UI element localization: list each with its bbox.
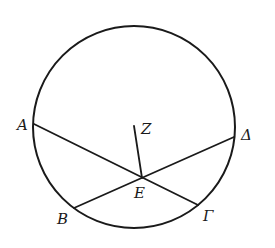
label-delta: Δ bbox=[240, 126, 252, 144]
label-e: E bbox=[133, 184, 145, 202]
label-z: Z bbox=[140, 120, 152, 138]
label-gamma: Γ bbox=[202, 207, 214, 225]
chord-b-delta bbox=[74, 137, 234, 208]
label-a: A bbox=[15, 116, 28, 134]
circle-chords-diagram: A B Γ Δ E Z bbox=[0, 0, 275, 248]
label-b: B bbox=[56, 210, 68, 228]
